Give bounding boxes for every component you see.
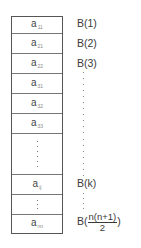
cell-subscript: ij (39, 184, 41, 190)
cell-subscript: nn (38, 223, 44, 229)
vertical-ellipsis-icon (12, 137, 62, 171)
array-cell-aij: aij (12, 174, 62, 194)
index-label-bk: B(k) (77, 177, 96, 189)
array-cell-ann: ann (12, 214, 62, 233)
index-label-b1: B(1) (77, 17, 97, 29)
cell-base: a (33, 178, 39, 189)
label-suffix: ) (117, 215, 121, 227)
dotted-connector-icon (83, 72, 84, 176)
cell-base: a (31, 217, 37, 228)
fraction-denominator: 2 (88, 223, 118, 233)
storage-array-box: a11 a21 a22 a31 a32 a33 aij ann (11, 16, 63, 234)
cell-base: a (31, 77, 37, 88)
cell-base: a (31, 57, 37, 68)
array-cell-ellipsis (12, 194, 62, 214)
index-label-b2: B(2) (77, 37, 97, 49)
fraction: n(n+1)2 (88, 212, 118, 233)
cell-base: a (31, 117, 37, 128)
cell-subscript: 11 (38, 24, 43, 30)
array-cell-a21: a21 (12, 33, 62, 53)
cell-subscript: 33 (38, 123, 44, 129)
cell-base: a (31, 37, 37, 48)
array-cell-a11: a11 (12, 17, 62, 33)
index-label-bn: B(n(n+1)2) (77, 212, 121, 233)
cell-subscript: 31 (38, 83, 44, 89)
cell-subscript: 22 (38, 63, 44, 69)
cell-subscript: 32 (38, 103, 44, 109)
array-cell-a33: a33 (12, 113, 62, 133)
array-cell-a32: a32 (12, 93, 62, 113)
index-label-b3: B(3) (77, 57, 97, 69)
cell-base: a (31, 97, 37, 108)
label-prefix: B( (77, 215, 88, 227)
cell-subscript: 21 (38, 43, 44, 49)
cell-base: a (31, 18, 37, 29)
dotted-connector-icon (83, 193, 84, 209)
array-cell-a22: a22 (12, 53, 62, 73)
array-cell-a31: a31 (12, 73, 62, 93)
array-cell-ellipsis (12, 133, 62, 174)
vertical-ellipsis-icon (12, 197, 62, 212)
